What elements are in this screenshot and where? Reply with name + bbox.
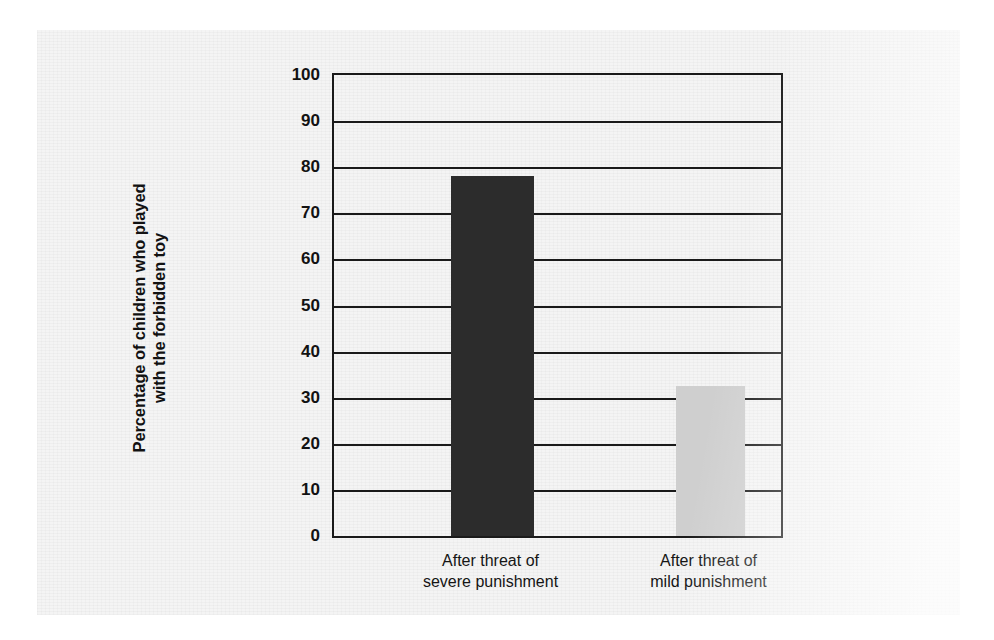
gridline-50 <box>334 306 781 308</box>
x-tick-label-0: After threat ofsevere punishment <box>376 550 606 592</box>
y-tick-100: 100 <box>276 65 320 85</box>
y-tick-0: 0 <box>276 526 320 546</box>
gridline-90 <box>334 121 781 123</box>
x-tick-label-1: After threat ofmild punishment <box>594 550 824 592</box>
y-tick-60: 60 <box>276 249 320 269</box>
bar-severe-punishment <box>451 176 534 536</box>
y-tick-50: 50 <box>276 296 320 316</box>
y-tick-90: 90 <box>276 111 320 131</box>
y-tick-80: 80 <box>276 157 320 177</box>
y-axis-title-line-2: with the forbidden toy <box>149 108 169 528</box>
x-tick-label-1-line-0: After threat of <box>594 550 824 571</box>
y-tick-20: 20 <box>276 434 320 454</box>
gridline-70 <box>334 213 781 215</box>
y-axis-title-line-1: Percentage of children who played <box>129 108 149 528</box>
y-tick-40: 40 <box>276 342 320 362</box>
x-tick-label-0-line-1: severe punishment <box>376 571 606 592</box>
plot-area <box>332 73 783 538</box>
y-axis-title: Percentage of children who played with t… <box>129 108 169 528</box>
gridline-40 <box>334 352 781 354</box>
bar-chart: Percentage of children who played with t… <box>37 30 960 615</box>
y-tick-70: 70 <box>276 203 320 223</box>
scanned-figure-page: Percentage of children who played with t… <box>37 30 960 615</box>
y-tick-30: 30 <box>276 388 320 408</box>
y-tick-10: 10 <box>276 480 320 500</box>
gridline-80 <box>334 167 781 169</box>
x-tick-label-0-line-0: After threat of <box>376 550 606 571</box>
bar-mild-punishment <box>676 386 745 536</box>
gridline-60 <box>334 259 781 261</box>
x-tick-label-1-line-1: mild punishment <box>594 571 824 592</box>
